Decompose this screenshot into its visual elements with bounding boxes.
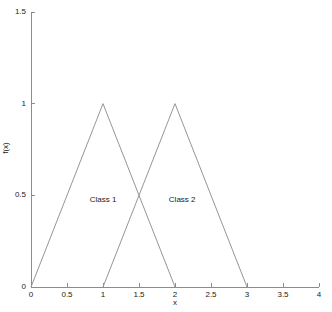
x-tick-label: 1 — [101, 291, 105, 299]
y-tick-label: 0 — [0, 283, 26, 291]
y-axis-title: f(x) — [2, 142, 10, 154]
series-group — [31, 104, 247, 287]
y-tick-label: 1.5 — [0, 8, 26, 16]
x-tick-label: 4 — [317, 291, 321, 299]
x-tick-label: 3 — [245, 291, 249, 299]
x-tick-label: 1.5 — [133, 291, 144, 299]
series-label-1: Class 1 — [90, 196, 117, 204]
x-axis-title: x — [173, 299, 177, 307]
x-tick-label: 0 — [29, 291, 33, 299]
axis-lines — [31, 12, 319, 287]
y-axis-ticks — [31, 12, 35, 287]
series-label-2: Class 2 — [169, 196, 196, 204]
x-tick-label: 0.5 — [61, 291, 72, 299]
x-tick-label: 2.5 — [205, 291, 216, 299]
figure-canvas: 00.511.522.533.54 00.511.5 Class 1Class … — [0, 0, 332, 312]
y-tick-label: 1 — [0, 100, 26, 108]
x-tick-label: 3.5 — [277, 291, 288, 299]
y-tick-label: 0.5 — [0, 191, 26, 199]
plot-area — [0, 0, 332, 312]
